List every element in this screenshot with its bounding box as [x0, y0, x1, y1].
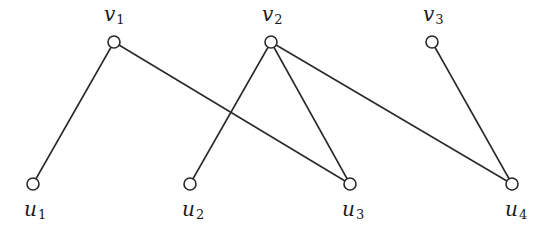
label-subscript: 4: [519, 207, 527, 222]
label-subscript: 1: [116, 12, 124, 27]
node-u3: [344, 178, 356, 190]
edge-v2-u3: [271, 42, 350, 184]
node-v1: [108, 36, 120, 48]
label-u2: u2: [182, 199, 204, 221]
label-u4: u4: [505, 199, 527, 221]
label-base: v: [423, 2, 434, 26]
edge-v2-u2: [190, 42, 271, 184]
label-subscript: 2: [274, 12, 282, 27]
label-base: u: [24, 197, 37, 221]
bipartite-graph: [0, 0, 546, 227]
label-u3: u3: [342, 199, 364, 221]
node-u4: [506, 178, 518, 190]
label-base: v: [262, 2, 273, 26]
label-base: u: [342, 197, 355, 221]
node-v3: [426, 36, 438, 48]
label-base: v: [104, 2, 115, 26]
label-subscript: 3: [435, 12, 443, 27]
label-subscript: 1: [38, 207, 46, 222]
node-v2: [265, 36, 277, 48]
label-v3: v3: [423, 4, 444, 26]
node-u2: [184, 178, 196, 190]
label-subscript: 3: [356, 207, 364, 222]
edges-group: [33, 42, 512, 184]
edge-v1-u3: [114, 42, 350, 184]
label-base: u: [182, 197, 195, 221]
label-v1: v1: [104, 4, 125, 26]
label-v2: v2: [262, 4, 283, 26]
edge-v3-u4: [432, 42, 512, 184]
nodes-group: [27, 36, 518, 190]
node-u1: [27, 178, 39, 190]
label-u1: u1: [24, 199, 46, 221]
label-subscript: 2: [196, 207, 204, 222]
edge-v1-u1: [33, 42, 114, 184]
label-base: u: [505, 197, 518, 221]
edge-v2-u4: [271, 42, 512, 184]
